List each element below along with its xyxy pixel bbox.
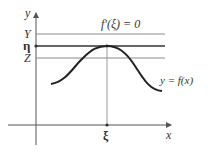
extremum-diagram: y x Y η Z f′(ξ) = 0 y = f(x) ξ xyxy=(0,0,208,154)
eta-point xyxy=(34,44,37,47)
derivative-label: f′(ξ) = 0 xyxy=(101,17,140,31)
xi-point xyxy=(105,123,108,126)
level-label-lower: Z xyxy=(24,51,31,65)
curve-label: y = f(x) xyxy=(159,74,193,87)
xi-label: ξ xyxy=(103,129,109,143)
y-axis-label: y xyxy=(24,6,31,20)
x-axis-label: x xyxy=(165,128,172,142)
